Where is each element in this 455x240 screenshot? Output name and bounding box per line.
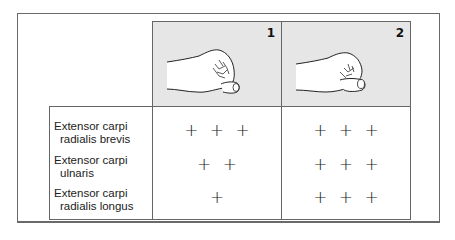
- row-label-1-line1: Extensor carpi: [54, 120, 128, 132]
- hand-fist-icon-2: [282, 22, 412, 108]
- image-cell-2: 2: [281, 21, 411, 107]
- image-cell-1: 1: [152, 21, 282, 107]
- row-3-col-1-rating: +: [152, 189, 282, 206]
- row-label-2-line2: ulnaris: [54, 167, 128, 180]
- row-label-3: Extensor carpi radialis longus: [54, 187, 134, 212]
- hand-fist-icon-1: [153, 22, 283, 108]
- row-2-col-2-rating: + + +: [281, 156, 411, 173]
- row-1-col-1-rating: + + +: [152, 122, 282, 139]
- row-label-3-line2: radialis longus: [54, 200, 134, 213]
- row-1-col-2-rating: + + +: [281, 122, 411, 139]
- row-label-2: Extensor carpi ulnaris: [54, 154, 128, 179]
- row-3-col-2-rating: + + +: [281, 189, 411, 206]
- row-label-1-line2: radialis brevis: [54, 133, 130, 146]
- row-label-3-line1: Extensor carpi: [54, 187, 128, 199]
- row-label-2-line1: Extensor carpi: [54, 154, 128, 166]
- row-label-1: Extensor carpi radialis brevis: [54, 120, 130, 145]
- row-2-col-1-rating: + +: [152, 156, 282, 173]
